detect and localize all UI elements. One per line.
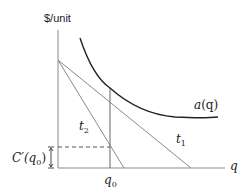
double-arrow-icon — [48, 147, 54, 168]
tangent-label-t1-sub: 1 — [181, 139, 186, 148]
marginal-cost-label-pre: C′(q — [12, 151, 36, 165]
marginal-cost-label: C′(q0) — [12, 152, 46, 167]
tangent-line-t2 — [58, 60, 124, 168]
tangent-line-t1 — [58, 60, 191, 168]
curve-label-arg: (q) — [201, 98, 218, 112]
tangent-label-t2: t2 — [79, 120, 89, 135]
q0-label-main: q — [104, 173, 112, 187]
marginal-cost-label-post: ) — [41, 151, 46, 165]
tangent-label-t2-sub: 2 — [84, 126, 89, 135]
q0-label-sub: 0 — [112, 180, 117, 189]
y-axis-label: $/unit — [44, 13, 71, 24]
x-axis-label: q — [230, 160, 238, 172]
curve-label: a(q) — [194, 99, 218, 111]
cost-diagram: $/unit q a(q) t1 t2 q0 C′(q0) — [0, 0, 250, 192]
tangent-label-t1: t1 — [176, 133, 186, 148]
q0-label: q0 — [104, 174, 117, 189]
